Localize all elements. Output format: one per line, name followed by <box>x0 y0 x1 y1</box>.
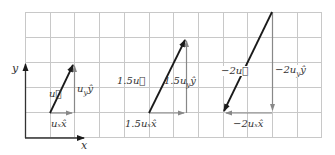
1.5u-x-component-label: 1.5uₓx̂ <box>125 119 157 129</box>
neg2u-y-component-label: −2uyŷ <box>275 65 306 78</box>
neg2u-y-hat: ŷ <box>300 64 306 75</box>
u-x-component-label: uₓx̂ <box>51 119 67 129</box>
u-vector-label: u⃗ <box>49 89 61 99</box>
1.5u-y-component-label: 1.5uyŷ <box>164 76 196 89</box>
1.5u-vector-label: 1.5u⃗ <box>117 76 145 86</box>
neg2u-vector-label: −2u⃗ <box>221 66 248 76</box>
u-y-hat: ŷ <box>87 83 93 94</box>
x-axis-label: x <box>81 140 87 151</box>
y-axis-label: y <box>12 63 18 74</box>
neg2u-y-text: −2u <box>275 64 296 75</box>
u-y-component-label: uyŷ <box>77 84 93 97</box>
neg2u-x-component-label: −2uₓx̂ <box>233 119 263 129</box>
1.5u-y-text: 1.5u <box>164 75 186 86</box>
1.5u-y-hat: ŷ <box>190 75 196 86</box>
